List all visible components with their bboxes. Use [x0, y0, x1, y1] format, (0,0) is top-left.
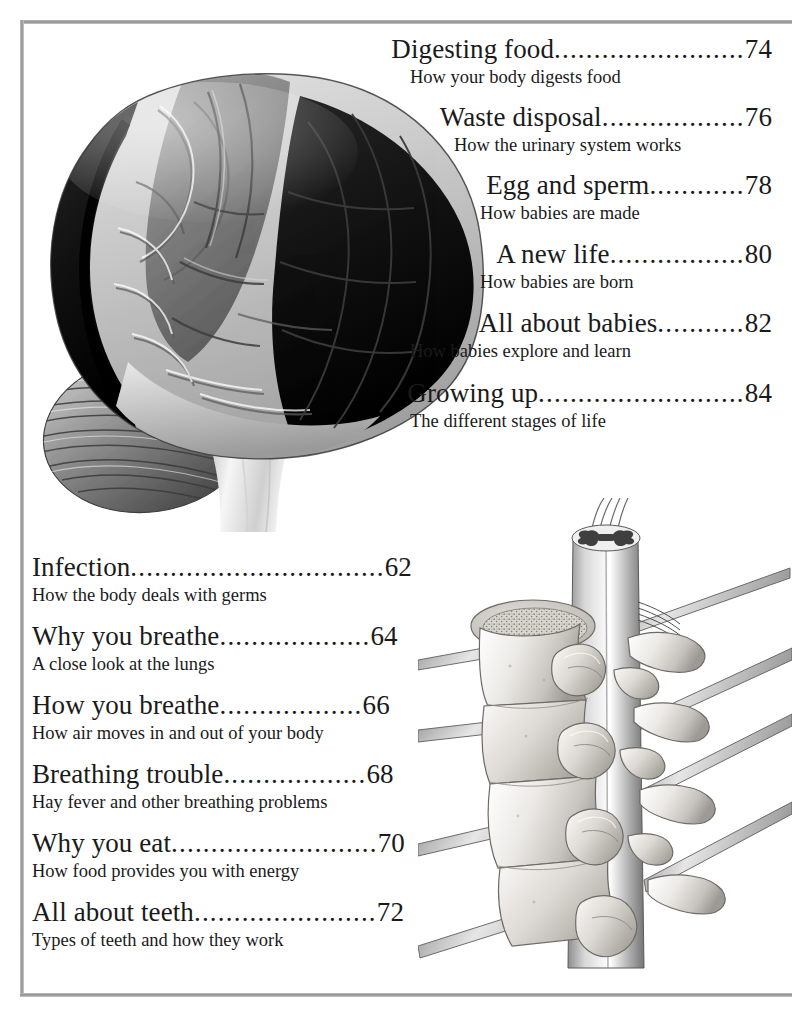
toc-entry[interactable]: Egg and sperm ............ 78 How babies… [410, 170, 772, 226]
toc-entry-title: How you breathe [32, 690, 219, 721]
toc-entry[interactable]: A new life ................. 80 How babi… [410, 239, 772, 295]
toc-entry[interactable]: Infection ..............................… [32, 552, 392, 608]
toc-entry[interactable]: Waste disposal .................. 76 How… [410, 102, 772, 158]
toc-entry-dots: .................. [223, 759, 366, 790]
toc-entry-line: All about teeth ....................... … [32, 897, 392, 928]
toc-entry[interactable]: Digesting food ........................ … [410, 34, 772, 90]
toc-entry-page: 72 [377, 897, 404, 928]
toc-entry-subtitle: Types of teeth and how they work [32, 929, 392, 953]
toc-entry-page: 66 [363, 690, 390, 721]
page-rule-top [20, 20, 792, 24]
toc-entry-line: Digesting food ........................ … [410, 34, 772, 65]
toc-entry-subtitle: How air moves in and out of your body [32, 722, 392, 746]
toc-entry[interactable]: Breathing trouble .................. 68 … [32, 759, 392, 815]
toc-entry-dots: ................................ [130, 552, 384, 583]
toc-entry-line: Waste disposal .................. 76 [410, 102, 772, 133]
toc-entry-page: 78 [745, 170, 772, 201]
toc-entry-page: 84 [745, 378, 772, 409]
toc-right-column: Digesting food ........................ … [410, 34, 772, 438]
toc-entry-dots: ............ [649, 170, 744, 201]
toc-entry-title: All about teeth [32, 897, 194, 928]
toc-entry-dots: .................. [219, 690, 362, 721]
toc-entry-title: Egg and sperm [486, 170, 649, 201]
toc-entry-dots: ....................... [194, 897, 377, 928]
toc-entry-title: Why you eat [32, 828, 171, 859]
toc-entry-title: Infection [32, 552, 130, 583]
toc-entry-dots: ........... [657, 308, 744, 339]
toc-entry-line: Why you breathe ................... 64 [32, 621, 392, 652]
toc-entry-subtitle: A close look at the lungs [32, 653, 392, 677]
toc-entry-title: Breathing trouble [32, 759, 223, 790]
toc-entry-subtitle: How babies are born [480, 271, 772, 295]
toc-entry-title: All about babies [479, 308, 658, 339]
toc-entry-line: Growing up .......................... 84 [410, 378, 772, 409]
toc-entry-line: Why you eat .......................... 7… [32, 828, 392, 859]
toc-entry-page: 62 [385, 552, 412, 583]
toc-entry-line: How you breathe .................. 66 [32, 690, 392, 721]
toc-entry-dots: .......................... [171, 828, 378, 859]
toc-entry-page: 64 [371, 621, 398, 652]
toc-entry-dots: ........................ [554, 34, 745, 65]
toc-entry-page: 68 [367, 759, 394, 790]
toc-entry[interactable]: Growing up .......................... 84… [410, 378, 772, 434]
toc-page: Digesting food ........................ … [0, 0, 792, 1035]
toc-entry-line: All about babies ........... 82 [410, 308, 772, 339]
toc-left-column: Infection ..............................… [32, 552, 392, 957]
toc-entry-line: Infection ..............................… [32, 552, 392, 583]
toc-entry-page: 74 [745, 34, 772, 65]
toc-entry-title: A new life [496, 239, 609, 270]
toc-entry-dots: ................... [219, 621, 370, 652]
toc-entry-dots: ................. [610, 239, 745, 270]
toc-entry-subtitle: How the urinary system works [454, 134, 772, 158]
toc-entry-line: A new life ................. 80 [410, 239, 772, 270]
toc-entry-dots: .................. [602, 102, 745, 133]
toc-entry-subtitle: Hay fever and other breathing problems [32, 791, 392, 815]
toc-entry-subtitle: How the body deals with germs [32, 584, 392, 608]
toc-entry[interactable]: All about babies ........... 82 How babi… [410, 308, 772, 364]
toc-entry-page: 76 [745, 102, 772, 133]
toc-entry-subtitle: How babies are made [480, 202, 772, 226]
toc-entry[interactable]: Why you eat .......................... 7… [32, 828, 392, 884]
toc-entry-title: Growing up [407, 378, 538, 409]
toc-entry-dots: .......................... [538, 378, 745, 409]
toc-entry-subtitle: How babies explore and learn [410, 340, 772, 364]
toc-entry-title: Digesting food [391, 34, 554, 65]
toc-entry-page: 80 [745, 239, 772, 270]
toc-entry-title: Why you breathe [32, 621, 219, 652]
toc-entry-page: 70 [378, 828, 405, 859]
toc-entry-subtitle: How food provides you with energy [32, 860, 392, 884]
toc-entry-title: Waste disposal [440, 102, 602, 133]
toc-entry-line: Breathing trouble .................. 68 [32, 759, 392, 790]
spine-illustration [418, 498, 792, 998]
toc-entry-page: 82 [745, 308, 772, 339]
toc-entry[interactable]: All about teeth ....................... … [32, 897, 392, 953]
toc-entry-subtitle: The different stages of life [410, 410, 772, 434]
toc-entry-subtitle: How your body digests food [410, 66, 772, 90]
toc-entry[interactable]: How you breathe .................. 66 Ho… [32, 690, 392, 746]
toc-entry-line: Egg and sperm ............ 78 [410, 170, 772, 201]
toc-entry[interactable]: Why you breathe ................... 64 A… [32, 621, 392, 677]
